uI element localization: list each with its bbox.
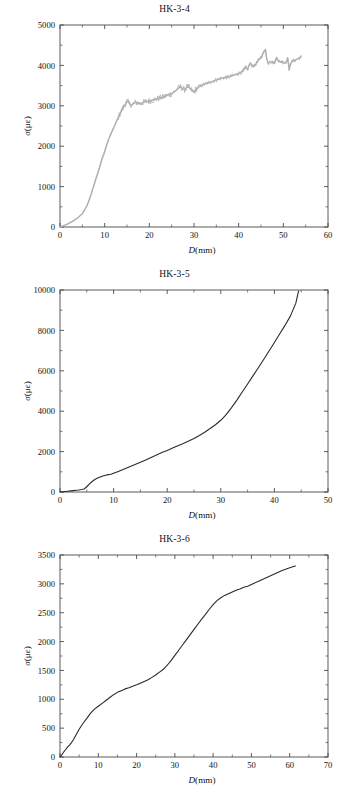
y-tick-label: 8000	[38, 326, 55, 336]
y-tick-label: 6000	[38, 366, 55, 376]
chart-panel-hk-3-4: HK-3-4 010203040506001000200030004000500…	[0, 0, 349, 265]
x-tick-label: 20	[132, 760, 141, 770]
y-tick-label: 0	[51, 487, 55, 497]
y-tick-label: 4000	[38, 406, 55, 416]
y-tick-label: 3500	[38, 550, 55, 560]
plot-area-hk-3-5: 010203040500200040006000800010000D(mm)σ(…	[0, 265, 349, 530]
chart-panel-hk-3-6: HK-3-6 010203040506070050010001500200025…	[0, 530, 349, 795]
y-tick-label: 3000	[38, 579, 55, 589]
y-axis-label-unit: (με)	[22, 381, 32, 396]
y-tick-label: 4000	[38, 61, 55, 71]
x-tick-label: 0	[58, 495, 62, 505]
y-tick-label: 2500	[38, 608, 55, 618]
x-tick-label: 10	[94, 760, 103, 770]
x-tick-label: 30	[171, 760, 180, 770]
y-tick-label: 5000	[38, 20, 55, 30]
x-axis-label: D(mm)	[187, 245, 215, 255]
x-tick-label: 60	[285, 760, 294, 770]
x-axis-label: D(mm)	[187, 510, 215, 520]
plot-frame	[60, 555, 328, 757]
x-tick-label: 60	[324, 230, 333, 240]
data-curve	[60, 566, 295, 757]
x-tick-label: 70	[324, 760, 333, 770]
x-tick-label: 0	[58, 230, 62, 240]
x-tick-label: 0	[58, 760, 62, 770]
y-tick-label: 1000	[38, 694, 55, 704]
y-tick-label: 10000	[34, 285, 55, 295]
data-curve	[60, 49, 301, 227]
y-tick-label: 2000	[38, 637, 55, 647]
plot-frame	[60, 25, 328, 227]
y-axis-label-unit: (με)	[22, 116, 32, 131]
y-axis-label-unit: (με)	[22, 646, 32, 661]
x-axis-label-unit: (mm)	[195, 245, 215, 255]
figure-stack: HK-3-4 010203040506001000200030004000500…	[0, 0, 349, 795]
x-tick-label: 30	[217, 495, 226, 505]
x-tick-label: 50	[324, 495, 333, 505]
y-tick-label: 2000	[38, 447, 55, 457]
y-tick-label: 1500	[38, 666, 55, 676]
x-axis-label: D(mm)	[187, 775, 215, 785]
x-tick-label: 10	[100, 230, 109, 240]
chart-panel-hk-3-5: HK-3-5 010203040500200040006000800010000…	[0, 265, 349, 530]
x-tick-label: 40	[234, 230, 243, 240]
y-axis-label: σ(με)	[22, 646, 32, 665]
y-axis-label: σ(με)	[22, 116, 32, 135]
y-axis-label: σ(με)	[22, 381, 32, 400]
x-tick-label: 20	[145, 230, 154, 240]
x-tick-label: 50	[279, 230, 288, 240]
x-tick-label: 40	[209, 760, 218, 770]
x-axis-label-unit: (mm)	[195, 510, 215, 520]
y-tick-label: 0	[51, 222, 55, 232]
data-curve-noise	[60, 50, 301, 227]
y-tick-label: 0	[51, 752, 55, 762]
y-tick-label: 2000	[38, 141, 55, 151]
x-tick-label: 10	[109, 495, 118, 505]
x-tick-label: 50	[247, 760, 256, 770]
x-axis-label-unit: (mm)	[195, 775, 215, 785]
plot-area-hk-3-4: 0102030405060010002000300040005000D(mm)σ…	[0, 0, 349, 265]
y-tick-label: 500	[42, 723, 55, 733]
y-tick-label: 1000	[38, 182, 55, 192]
x-tick-label: 20	[163, 495, 172, 505]
data-curve	[60, 291, 299, 492]
x-tick-label: 30	[190, 230, 199, 240]
x-tick-label: 40	[270, 495, 279, 505]
y-tick-label: 3000	[38, 101, 55, 111]
plot-area-hk-3-6: 0102030405060700500100015002000250030003…	[0, 530, 349, 795]
